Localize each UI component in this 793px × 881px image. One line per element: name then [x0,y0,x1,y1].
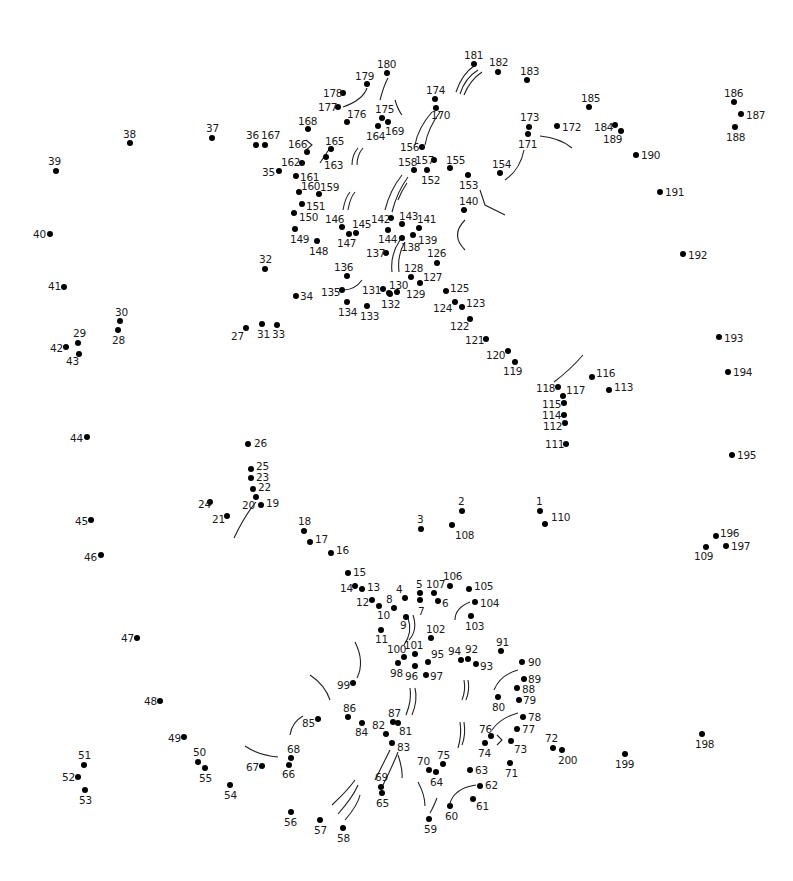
dot-label: 25 [256,461,269,472]
dot-128 [408,274,414,280]
dot-190 [633,152,639,158]
dot-145 [353,230,359,236]
dot-18 [301,528,307,534]
dot-label: 126 [427,248,446,259]
guide-stroke [466,680,469,700]
dot-label: 170 [431,110,450,121]
dot-label: 151 [306,201,325,212]
dot-label: 10 [377,610,390,621]
dot-label: 34 [300,291,313,302]
dot-label: 193 [724,333,743,344]
dot-label: 68 [287,744,300,755]
dot-label: 196 [720,528,739,539]
dot-78 [520,714,526,720]
dot-label: 94 [448,646,461,657]
dot-label: 164 [366,131,385,142]
dot-label: 147 [337,238,356,249]
dot-label: 15 [353,567,366,578]
dot-label: 101 [404,640,423,651]
dot-label: 62 [485,780,498,791]
dot-label: 31 [257,329,270,340]
dot-70 [426,767,432,773]
dot-label: 114 [542,410,561,421]
dot-label: 78 [528,712,541,723]
dot-label: 153 [459,180,478,191]
dot-label: 11 [375,634,388,645]
dot-183 [524,77,530,83]
guide-stroke [348,192,355,210]
dot-label: 107 [426,579,445,590]
dot-83 [389,740,395,746]
dot-label: 79 [523,695,536,706]
dot-label: 115 [542,399,561,410]
guide-stroke [398,755,402,778]
dot-label: 40 [33,229,46,240]
guide-stroke [458,220,466,250]
dot-label: 188 [726,132,745,143]
guide-stroke [462,722,465,745]
dot-label: 125 [450,283,469,294]
dot-154 [497,170,503,176]
dot-label: 47 [121,633,134,644]
dot-label: 66 [282,769,295,780]
dot-200 [559,747,565,753]
dot-34 [293,293,299,299]
dot-15 [345,570,351,576]
dot-197 [723,543,729,549]
dot-105 [466,586,472,592]
dot-152 [424,167,430,173]
dot-label: 131 [362,285,381,296]
dot-label: 108 [455,530,474,541]
dot-label: 13 [367,582,380,593]
dot-193 [716,334,722,340]
dot-label: 106 [443,571,462,582]
dot-label: 142 [371,214,390,225]
dot-77 [514,726,520,732]
dot-label: 140 [459,196,478,207]
dot-label: 21 [212,514,225,525]
guide-stroke [380,78,388,100]
dot-label: 23 [256,472,269,483]
dot-148 [314,238,320,244]
dot-96 [412,663,418,669]
dot-label: 181 [464,50,483,61]
dot-54 [227,782,233,788]
dot-label: 45 [75,516,88,527]
dot-46 [98,552,104,558]
dot-label: 103 [465,621,484,632]
dot-label: 102 [426,624,445,635]
dot-39 [53,168,59,174]
dot-label: 146 [325,214,344,225]
dot-113 [606,387,612,393]
dot-38 [127,140,133,146]
dot-108 [449,522,455,528]
dot-199 [622,751,628,757]
guide-stroke [554,355,583,382]
dot-30 [117,318,123,324]
dot-label: 174 [426,85,445,96]
dot-116 [589,374,595,380]
guide-stroke [343,88,367,107]
dot-49 [181,734,187,740]
guide-stroke [456,66,474,92]
dot-label: 71 [505,768,518,779]
dot-label: 35 [262,167,275,178]
dot-196 [713,533,719,539]
dot-55 [202,765,208,771]
dot-label: 67 [246,762,259,773]
dot-label: 167 [261,130,280,141]
dot-69 [378,784,384,790]
dot-label: 121 [465,335,484,346]
dot-label: 88 [522,684,535,695]
dot-87 [390,719,396,725]
dot-label: 200 [558,755,577,766]
guide-stroke [412,688,416,715]
dot-label: 8 [386,594,392,605]
dot-label: 96 [405,671,418,682]
dot-36 [253,142,259,148]
dot-label: 55 [199,773,212,784]
dot-29 [75,340,81,346]
dot-label: 141 [417,214,436,225]
dot-195 [729,452,735,458]
dot-label: 120 [486,350,505,361]
